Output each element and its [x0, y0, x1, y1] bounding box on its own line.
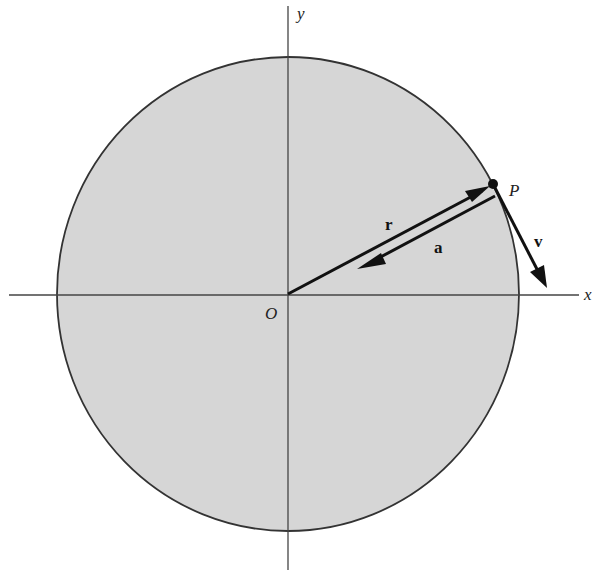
v-label: v — [534, 232, 543, 251]
x-axis-label: x — [583, 285, 592, 304]
r-label: r — [385, 215, 393, 234]
circular-motion-diagram: y x O P r a v — [0, 0, 595, 572]
y-axis-label: y — [295, 4, 305, 23]
arrowhead-v — [530, 265, 547, 288]
origin-label: O — [265, 304, 277, 323]
point-p — [488, 179, 498, 189]
point-p-label: P — [508, 181, 519, 200]
a-label: a — [434, 238, 443, 257]
